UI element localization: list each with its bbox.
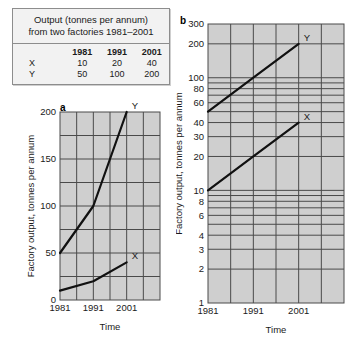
y-tick-label: 2	[199, 263, 204, 274]
y-tick-label: 8	[199, 196, 204, 207]
table-col-header-2001: 2001	[134, 44, 169, 58]
table-caption-line-1: Output (tonnes per annum)	[17, 14, 165, 26]
y-tick-label: 300	[188, 18, 204, 29]
table-row: X 10 20 40	[13, 58, 169, 69]
series-label-y: Y	[304, 32, 311, 43]
table-cell-y-2001: 200	[134, 69, 169, 84]
table-cell-x-1991: 20	[100, 58, 135, 69]
x-tick-label: 1981	[197, 305, 218, 316]
table-col-header-blank	[13, 44, 65, 58]
x-tick-label: 2001	[288, 305, 309, 316]
series-label-y: Y	[132, 100, 139, 111]
y-tick-label: 200	[188, 38, 204, 49]
y-tick-label: 40	[193, 117, 204, 128]
y-tick-label: 200	[40, 106, 56, 117]
chart-a-plot: 050100150200198119912001TimeFactory outp…	[0, 95, 176, 342]
series-label-x: X	[304, 111, 311, 122]
x-tick-label: 1991	[243, 305, 264, 316]
table-caption-line-2: from two factories 1981–2001	[17, 26, 165, 38]
x-axis-title: Time	[100, 321, 121, 332]
y-tick-label: 80	[193, 83, 204, 94]
chart-b-container: b 30020010080604030201086432119811991200…	[176, 0, 352, 342]
table-header: 1981 1991 2001	[13, 44, 169, 58]
table-col-header-1991: 1991	[100, 44, 135, 58]
chart-b-plot: 300200100806040302010864321198119912001T…	[176, 0, 352, 342]
x-axis-title: Time	[266, 324, 287, 335]
table-cell-y-1991: 100	[100, 69, 135, 84]
x-tick-label: 1981	[49, 302, 70, 313]
series-label-x: X	[132, 250, 139, 261]
panel-label-a: a	[60, 102, 66, 113]
table-cell-x-1981: 10	[65, 58, 100, 69]
y-tick-label: 6	[199, 210, 204, 221]
panel-label-b: b	[180, 15, 186, 26]
output-data-table: 1981 1991 2001 X 10 20 40 Y 50 100 200	[13, 44, 169, 84]
table-row: Y 50 100 200	[13, 69, 169, 84]
y-axis-title: Factory output, tonnes per annum	[176, 92, 184, 235]
y-tick-label: 10	[193, 185, 204, 196]
table-col-header-1981: 1981	[65, 44, 100, 58]
table-row-label-x: X	[13, 58, 65, 69]
table-cell-x-2001: 40	[134, 58, 169, 69]
y-tick-label: 60	[193, 97, 204, 108]
table-cell-y-1981: 50	[65, 69, 100, 84]
chart-a-container: a 050100150200198119912001TimeFactory ou…	[0, 95, 176, 342]
y-tick-label: 20	[193, 151, 204, 162]
y-tick-label: 4	[199, 230, 204, 241]
x-tick-label: 2001	[116, 302, 137, 313]
x-tick-label: 1991	[83, 302, 104, 313]
y-tick-label: 100	[188, 72, 204, 83]
y-axis-title: Factory output, tonnes per annum	[25, 135, 36, 278]
y-tick-label: 50	[45, 247, 56, 258]
y-tick-label: 30	[193, 131, 204, 142]
table-body: X 10 20 40 Y 50 100 200	[13, 58, 169, 84]
y-tick-label: 100	[40, 200, 56, 211]
table-header-row: 1981 1991 2001	[13, 44, 169, 58]
table-row-label-y: Y	[13, 69, 65, 84]
table-caption: Output (tonnes per annum) from two facto…	[13, 9, 169, 44]
y-tick-label: 3	[199, 244, 204, 255]
output-data-table-card: Output (tonnes per annum) from two facto…	[12, 8, 170, 85]
y-tick-label: 150	[40, 153, 56, 164]
